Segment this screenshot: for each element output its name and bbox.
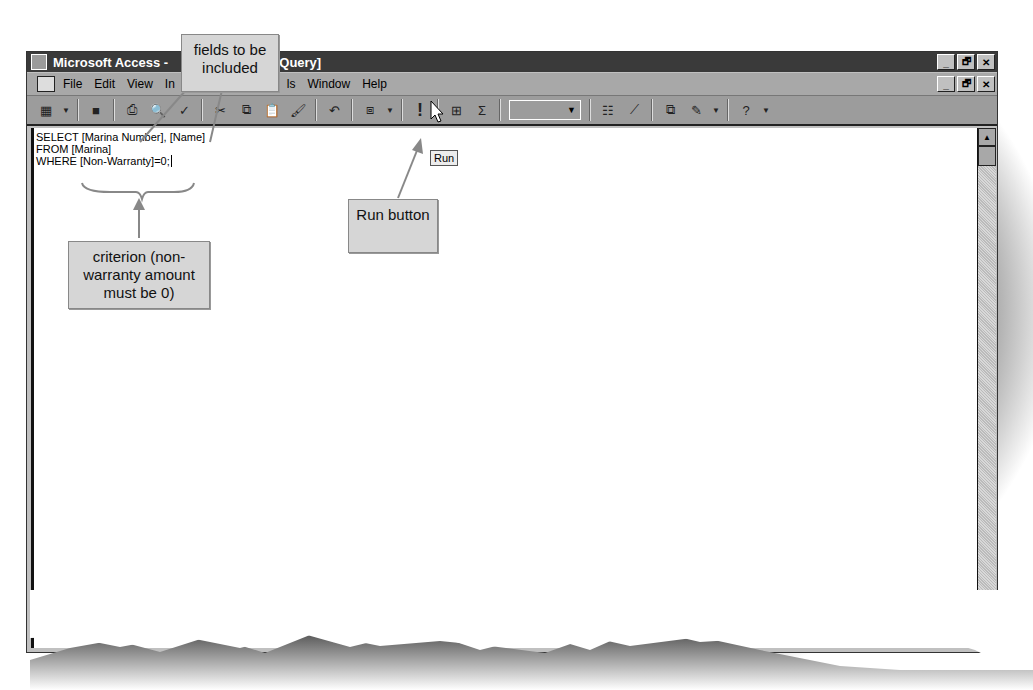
fields-callout: fields to be included bbox=[181, 34, 279, 92]
annotation-arrows bbox=[0, 0, 1033, 690]
run-tooltip: Run bbox=[430, 150, 458, 166]
criterion-callout: criterion (non-warranty amount must be 0… bbox=[68, 241, 210, 309]
run-button-callout: Run button bbox=[348, 199, 438, 253]
